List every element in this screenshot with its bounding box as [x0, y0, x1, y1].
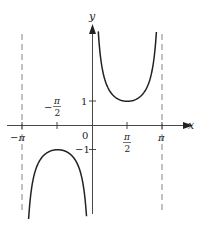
- svg-text:2: 2: [55, 108, 61, 118]
- x-axis-label: x: [188, 119, 195, 132]
- tick-label-y-neg-1: −1: [75, 144, 90, 155]
- y-axis-label: y: [88, 10, 96, 23]
- tick-label-half-pi: π 2: [123, 132, 131, 154]
- origin-label: 0: [82, 130, 88, 141]
- lower-branch-curve: [29, 150, 87, 219]
- tick-label-y-1: 1: [81, 96, 87, 107]
- upper-branch-curve: [98, 31, 156, 101]
- svg-text:−: −: [44, 102, 52, 113]
- tick-label-neg-half-pi: − π 2: [44, 96, 61, 118]
- y-axis-arrow-icon: [89, 24, 96, 34]
- tick-label-neg-pi: −π: [10, 132, 25, 143]
- svg-text:2: 2: [125, 144, 131, 154]
- svg-text:π: π: [53, 96, 61, 106]
- tick-label-pi: π: [157, 132, 165, 143]
- svg-text:π: π: [123, 132, 131, 142]
- csc-graph: y x 0 −π π − π 2 π 2 1 −1: [0, 0, 197, 229]
